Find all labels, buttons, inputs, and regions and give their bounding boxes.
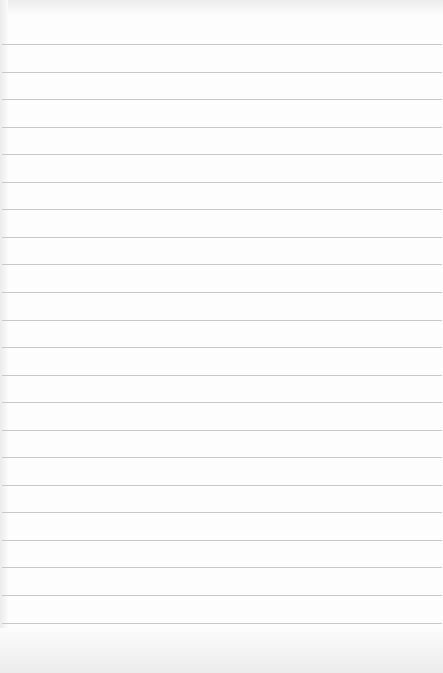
lined-paper-page [0, 0, 443, 673]
ruled-line [2, 154, 442, 155]
ruled-line [2, 182, 442, 183]
ruled-line [2, 567, 442, 568]
ruled-line [2, 512, 442, 513]
ruled-line [2, 72, 442, 73]
ruled-line [2, 237, 442, 238]
ruled-line [2, 99, 442, 100]
ruled-line [2, 320, 442, 321]
ruled-line [2, 375, 442, 376]
ruled-line [2, 595, 442, 596]
ruled-lines [0, 0, 443, 673]
ruled-line [2, 457, 442, 458]
ruled-line [2, 44, 442, 45]
ruled-line [2, 264, 442, 265]
ruled-line [2, 623, 442, 624]
ruled-line [2, 292, 442, 293]
ruled-line [2, 430, 442, 431]
ruled-line [2, 402, 442, 403]
ruled-line [2, 485, 442, 486]
ruled-line [2, 347, 442, 348]
ruled-line [2, 127, 442, 128]
ruled-line [2, 540, 442, 541]
ruled-line [2, 209, 442, 210]
